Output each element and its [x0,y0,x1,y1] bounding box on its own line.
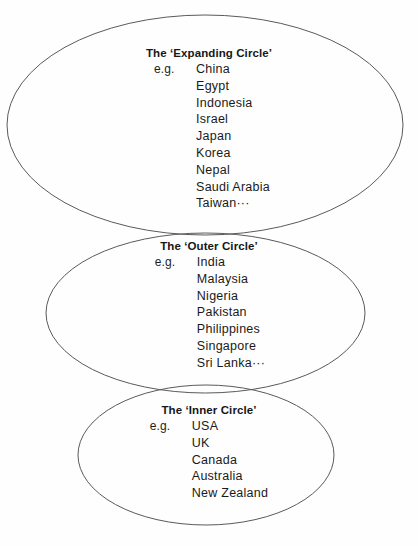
country-name: UK [192,435,210,452]
outer-circle-title: The ‘Outer Circle’ [0,239,418,253]
country-name: New Zealand [192,485,268,502]
list-item: e.g. Canada [150,452,268,469]
list-item: e.g. Indonesia [154,95,270,112]
country-name: Indonesia [196,95,252,112]
inner-circle-content: The ‘Inner Circle’ e.g. USA e.g. UK e.g.… [0,403,418,502]
outer-circle-content: The ‘Outer Circle’ e.g. India e.g. Malay… [0,239,418,372]
inner-circle-country-list: e.g. USA e.g. UK e.g. Canada e.g. Austra… [150,418,268,502]
eg-label: e.g. [154,61,196,78]
outer-circle-country-list: e.g. India e.g. Malaysia e.g. Nigeria e.… [155,254,265,372]
list-item: e.g. New Zealand [150,485,268,502]
country-name: Korea [196,145,231,162]
country-name: Nepal [196,162,230,179]
country-name: Japan [196,128,231,145]
list-item: e.g. Singapore [155,338,265,355]
country-name: Nigeria [197,288,238,305]
list-item: e.g. China [154,61,270,78]
eg-label: e.g. [150,418,192,435]
list-item: e.g. Saudi Arabia [154,179,270,196]
list-item: e.g. Egypt [154,78,270,95]
list-item: e.g. Pakistan [155,304,265,321]
country-name: Philippines [197,321,260,338]
list-item: e.g. Australia [150,468,268,485]
list-item: e.g. Korea [154,145,270,162]
country-name: Israel [196,111,228,128]
list-item: e.g. Nepal [154,162,270,179]
country-name: Australia [192,468,243,485]
country-name: USA [192,418,218,435]
country-name: Malaysia [197,271,248,288]
list-item: e.g. Nigeria [155,288,265,305]
list-item: e.g. UK [150,435,268,452]
list-item: e.g. India [155,254,265,271]
expanding-circle-content: The ‘Expanding Circle’ e.g. China e.g. E… [0,46,418,212]
list-item: e.g. Taiwan··· [154,195,270,212]
country-name: Saudi Arabia [196,179,270,196]
country-name: Egypt [196,78,229,95]
list-item: e.g. USA [150,418,268,435]
country-name: Singapore [197,338,256,355]
eg-label: e.g. [155,254,197,271]
expanding-circle-country-list: e.g. China e.g. Egypt e.g. Indonesia e.g… [154,61,270,212]
expanding-circle-title: The ‘Expanding Circle’ [0,46,418,60]
list-item: e.g. Sri Lanka··· [155,355,265,372]
country-name: India [197,254,225,271]
country-name: Pakistan [197,304,247,321]
three-circles-diagram: The ‘Expanding Circle’ e.g. China e.g. E… [0,0,418,546]
country-name: Canada [192,452,237,469]
list-item: e.g. Japan [154,128,270,145]
country-name: Sri Lanka··· [197,355,265,372]
country-name: Taiwan··· [196,195,250,212]
inner-circle-title: The ‘Inner Circle’ [0,403,418,417]
list-item: e.g. Philippines [155,321,265,338]
list-item: e.g. Israel [154,111,270,128]
country-name: China [196,61,230,78]
list-item: e.g. Malaysia [155,271,265,288]
